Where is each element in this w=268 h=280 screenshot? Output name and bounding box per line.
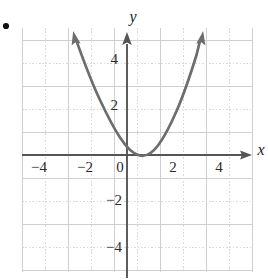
figure-container: y x −4 −2 0 2 4 4 2 −2 −4 [0, 0, 268, 280]
y-tick-minus2: −2 [106, 192, 122, 208]
y-axis-label: y [127, 8, 137, 26]
y-tick-minus4: −4 [106, 239, 122, 255]
x-tick-zero: 0 [116, 159, 124, 175]
y-tick-4: 4 [111, 51, 119, 67]
right-arm-arrow-icon [196, 31, 205, 46]
item-bullet-icon [3, 23, 9, 29]
parabola-graph: y x −4 −2 0 2 4 4 2 −2 −4 [0, 0, 268, 280]
x-tick-4: 4 [215, 159, 223, 175]
grid-lines [22, 28, 252, 272]
x-axis-label: x [256, 141, 264, 158]
x-tick-minus2: −2 [77, 159, 93, 175]
parabola-curve [72, 31, 206, 156]
y-axis-arrow-icon [122, 32, 132, 45]
x-tick-2: 2 [169, 159, 177, 175]
x-tick-minus4: −4 [31, 159, 47, 175]
y-tick-2: 2 [111, 97, 119, 113]
